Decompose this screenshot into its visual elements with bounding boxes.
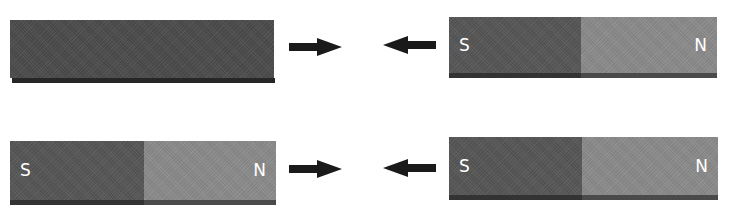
south-pole: S	[449, 17, 581, 78]
north-pole-edge	[582, 195, 718, 200]
unmagnetized-bar	[10, 20, 275, 83]
south-pole-edge	[449, 195, 582, 200]
north-pole: N	[581, 17, 717, 78]
south-pole: S	[449, 137, 582, 200]
south-pole-label: S	[20, 162, 31, 179]
north-pole-label: N	[695, 157, 708, 174]
north-pole-label: N	[694, 36, 707, 53]
north-pole-edge	[144, 200, 276, 205]
south-pole-label: S	[459, 157, 470, 174]
south-pole-edge	[10, 200, 144, 205]
unmagnetized-bar-face	[10, 20, 274, 78]
bar-magnet-bottom-right: S N	[449, 137, 718, 200]
bar-magnet-bottom-left: S N	[10, 141, 276, 205]
south-pole: S	[10, 141, 144, 205]
arrow-left-icon	[383, 159, 437, 177]
arrow-left-icon	[383, 36, 437, 54]
south-pole-edge	[449, 73, 581, 78]
south-pole-label: S	[459, 36, 470, 53]
arrow-right-icon	[289, 38, 343, 56]
north-pole-edge	[581, 73, 717, 78]
north-pole: N	[582, 137, 718, 200]
north-pole-label: N	[253, 162, 266, 179]
bar-magnet-top-right: S N	[449, 17, 717, 78]
unmagnetized-bar-bottom-edge	[12, 78, 275, 83]
arrow-right-icon	[289, 160, 343, 178]
north-pole: N	[144, 141, 276, 205]
